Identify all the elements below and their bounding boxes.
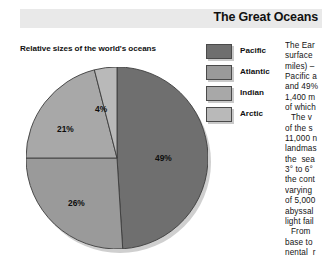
legend-swatch-indian: [206, 86, 232, 101]
legend-swatch-pacific: [206, 44, 232, 59]
legend-swatch-atlantic: [206, 65, 232, 80]
pie-slices: [26, 67, 208, 249]
legend-item-arctic: Arctic: [206, 105, 284, 126]
article-paragraph-2: The v of the s 11,000 n landmas the sea …: [285, 113, 322, 227]
legend-label-pacific: Pacific: [240, 44, 266, 57]
pie-label-indian: 21%: [57, 124, 74, 134]
pie-chart-svg: [26, 67, 208, 249]
legend-label-indian: Indian: [240, 86, 264, 99]
pie-label-pacific: 49%: [155, 153, 172, 163]
legend-item-indian: Indian: [206, 84, 284, 105]
chart-legend: Pacific Atlantic Indian Arctic: [206, 42, 284, 126]
legend-swatch-arctic: [206, 107, 232, 122]
article-paragraph-1: The Ear surface miles) – Pacific a and 4…: [285, 41, 322, 113]
pie-label-atlantic: 26%: [68, 198, 85, 208]
legend-label-arctic: Arctic: [240, 107, 263, 120]
legend-item-atlantic: Atlantic: [206, 63, 284, 84]
figure-caption: Relative sizes of the world's oceans: [20, 44, 156, 53]
pie-label-arctic: 4%: [95, 104, 107, 114]
page-title: The Great Oceans: [213, 10, 318, 24]
legend-item-pacific: Pacific: [206, 42, 284, 63]
legend-label-atlantic: Atlantic: [240, 65, 270, 78]
article-text-column: The Ear surface miles) – Pacific a and 4…: [285, 41, 322, 263]
article-paragraph-3: From base to nental r: [285, 227, 322, 258]
pie-chart: 49% 26% 21% 4%: [26, 67, 208, 249]
